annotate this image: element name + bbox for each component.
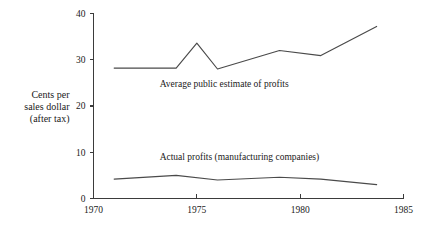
series-annotations: Average public estimate of profitsActual…	[160, 79, 320, 163]
y-tick-label: 40	[76, 9, 86, 19]
y-tick-label: 10	[76, 148, 86, 158]
series-line-1	[114, 175, 376, 184]
y-axis-title: Cents persales dollar(after tax)	[24, 89, 70, 125]
series-line-0	[114, 26, 376, 69]
y-tick-label: 20	[76, 101, 86, 111]
y-axis-title-line-2: (after tax)	[30, 113, 70, 125]
x-tick-label: 1975	[187, 205, 206, 215]
y-axis-ticks: 010203040	[76, 9, 94, 204]
y-tick-label: 0	[81, 194, 86, 204]
chart-container: 010203040 1970197519801985 Average publi…	[0, 0, 422, 237]
series-annotation-0: Average public estimate of profits	[160, 79, 289, 89]
x-tick-label: 1980	[291, 205, 310, 215]
x-tick-label: 1970	[84, 205, 103, 215]
y-axis-title-line-0: Cents per	[31, 89, 70, 100]
y-axis-title-line-1: sales dollar	[24, 101, 70, 112]
y-tick-label: 30	[76, 55, 86, 65]
x-axis-ticks: 1970197519801985	[84, 194, 413, 215]
chart-axes	[94, 14, 404, 199]
series-annotation-1: Actual profits (manufacturing companies)	[160, 152, 320, 163]
x-tick-label: 1985	[394, 205, 413, 215]
line-chart: 010203040 1970197519801985 Average publi…	[0, 0, 422, 237]
